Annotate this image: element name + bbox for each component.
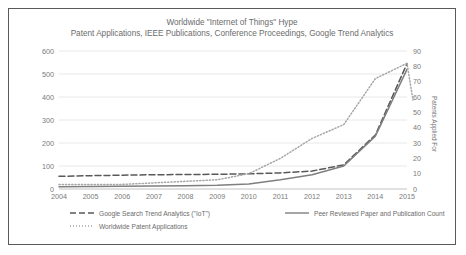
chart-legend: Google Search Trend Analytics ("IoT") Pe… <box>69 209 449 235</box>
y-axis-right-tick: 70 <box>413 77 421 86</box>
y-axis-left-tick: 600 <box>42 47 54 56</box>
series-line-1 <box>59 69 407 186</box>
x-axis-tick: 2012 <box>304 192 320 201</box>
y-axis-right-tick: 20 <box>413 154 421 163</box>
y-axis-right-tick: 40 <box>413 123 421 132</box>
x-axis-tick: 2005 <box>83 192 99 201</box>
y-axis-right-tick: 90 <box>413 47 421 56</box>
x-axis-tick: 2007 <box>146 192 162 201</box>
legend-row-2: Worldwide Patent Applications <box>69 222 449 230</box>
y-axis-left-tick: 100 <box>42 162 54 171</box>
x-axis-tick: 2006 <box>114 192 130 201</box>
y-axis-right-tick: 50 <box>413 108 421 117</box>
y-axis-left-tick: 500 <box>42 70 54 79</box>
legend-item-patents[interactable]: Worldwide Patent Applications <box>69 222 188 230</box>
legend-item-publications[interactable]: Peer Reviewed Paper and Publication Coun… <box>284 209 445 217</box>
x-axis-tick: 2011 <box>273 192 288 201</box>
x-axis-tick: 2015 <box>399 192 415 201</box>
legend-label-google-trends: Google Search Trend Analytics ("IoT") <box>99 210 210 217</box>
legend-row-1: Google Search Trend Analytics ("IoT") Pe… <box>69 209 449 217</box>
legend-marker-solid-icon <box>284 209 310 217</box>
legend-item-google-trends[interactable]: Google Search Trend Analytics ("IoT") <box>69 209 284 217</box>
y-axis-right-tick: 60 <box>413 93 421 102</box>
y-axis-left-tick: 200 <box>42 139 54 148</box>
chart-card: Worldwide "Internet of Things" Hype Pate… <box>8 8 456 245</box>
x-axis-tick: 2004 <box>51 192 67 201</box>
legend-marker-dashed-icon <box>69 209 95 217</box>
x-axis-tick: 2013 <box>336 192 352 201</box>
legend-marker-dotted-icon <box>69 222 95 230</box>
y-axis-right-tick: 80 <box>413 62 421 71</box>
y-axis-right-tick: 10 <box>413 169 421 178</box>
x-axis-tick: 2009 <box>209 192 225 201</box>
y-axis-left-tick: 400 <box>42 93 54 102</box>
x-axis-tick: 2010 <box>241 192 257 201</box>
x-axis-tick: 2014 <box>367 192 383 201</box>
legend-label-publications: Peer Reviewed Paper and Publication Coun… <box>314 210 445 217</box>
y-axis-left-tick: 300 <box>42 116 54 125</box>
legend-label-patents: Worldwide Patent Applications <box>99 223 188 230</box>
x-axis-tick: 2008 <box>178 192 194 201</box>
y-axis-right-tick: 30 <box>413 139 421 148</box>
